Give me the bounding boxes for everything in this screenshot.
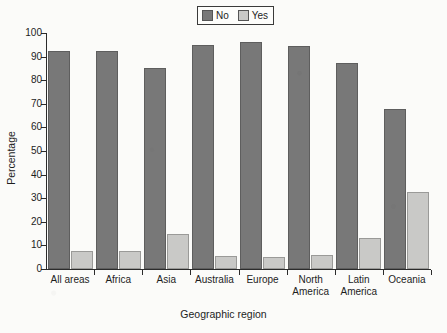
y-tick-label: 90 bbox=[31, 52, 42, 62]
y-tick-label: 40 bbox=[31, 170, 42, 180]
bar-yes-5 bbox=[263, 257, 285, 269]
x-tick-mark bbox=[287, 270, 288, 275]
bar-yes-4 bbox=[215, 256, 237, 269]
x-label-north-america: North America bbox=[292, 274, 329, 297]
x-tick-mark bbox=[190, 270, 191, 275]
bar-no-5 bbox=[240, 42, 262, 269]
plot-area: 0102030405060708090100 bbox=[46, 33, 431, 270]
x-label-oceania: Oceania bbox=[388, 274, 425, 286]
x-tick-mark bbox=[335, 270, 336, 275]
bar-group-1 bbox=[48, 33, 93, 269]
bar-no-7 bbox=[336, 63, 358, 270]
y-tick-label: 10 bbox=[31, 240, 42, 250]
legend-label-yes: Yes bbox=[252, 11, 268, 21]
bar-yes-1 bbox=[71, 251, 93, 269]
bar-yes-2 bbox=[119, 251, 141, 269]
x-tick-mark bbox=[239, 270, 240, 275]
chart-legend: No Yes bbox=[197, 6, 274, 25]
y-tick-label: 20 bbox=[31, 217, 42, 227]
bar-no-4 bbox=[192, 45, 214, 269]
bar-no-2 bbox=[96, 51, 118, 269]
bar-no-3 bbox=[144, 68, 166, 269]
x-label-latin-america: Latin America bbox=[340, 274, 377, 297]
bar-chart-figure: No Yes Percentage 0102030405060708090100… bbox=[0, 0, 447, 333]
y-axis-title-text: Percentage bbox=[5, 131, 17, 185]
bar-yes-3 bbox=[167, 234, 189, 269]
y-tick-label: 60 bbox=[31, 122, 42, 132]
y-tick-label: 70 bbox=[31, 99, 42, 109]
bar-yes-7 bbox=[359, 238, 381, 269]
x-tick-mark bbox=[94, 270, 95, 275]
bar-no-6 bbox=[288, 46, 310, 269]
legend-swatch-no bbox=[202, 10, 213, 21]
y-tick-label: 100 bbox=[25, 28, 42, 38]
x-label-asia: Asia bbox=[157, 274, 176, 286]
bar-no-1 bbox=[48, 51, 70, 269]
bar-yes-8 bbox=[407, 192, 429, 269]
x-axis-title: Geographic region bbox=[0, 308, 447, 320]
y-tick-label: 50 bbox=[31, 146, 42, 156]
legend-item-yes: Yes bbox=[238, 10, 268, 21]
bar-group-3 bbox=[144, 33, 189, 269]
bar-group-2 bbox=[96, 33, 141, 269]
x-label-europe: Europe bbox=[246, 274, 278, 286]
legend-item-no: No bbox=[202, 10, 229, 21]
x-tick-mark bbox=[142, 270, 143, 275]
bar-yes-6 bbox=[311, 255, 333, 269]
y-tick-label: 80 bbox=[31, 75, 42, 85]
y-axis-title: Percentage bbox=[4, 0, 18, 333]
y-tick-label: 0 bbox=[36, 264, 42, 274]
bar-no-8 bbox=[384, 109, 406, 269]
bar-group-4 bbox=[192, 33, 237, 269]
legend-swatch-yes bbox=[238, 10, 249, 21]
x-label-australia: Australia bbox=[195, 274, 234, 286]
y-tick-label: 30 bbox=[31, 193, 42, 203]
x-tick-mark bbox=[383, 270, 384, 275]
x-label-africa: Africa bbox=[105, 274, 131, 286]
legend-label-no: No bbox=[216, 11, 229, 21]
bar-group-8 bbox=[384, 33, 429, 269]
bar-group-6 bbox=[288, 33, 333, 269]
bar-group-7 bbox=[336, 33, 381, 269]
x-tick-mark bbox=[431, 270, 432, 275]
bar-group-5 bbox=[240, 33, 285, 269]
x-label-all-areas: All areas bbox=[51, 274, 90, 286]
